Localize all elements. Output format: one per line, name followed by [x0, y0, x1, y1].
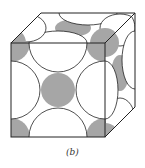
side-edge-atom — [122, 31, 145, 89]
face-center-atom — [41, 73, 75, 107]
fcc-unit-cell-diagram — [0, 0, 145, 150]
figure-caption: (b) — [0, 147, 145, 157]
